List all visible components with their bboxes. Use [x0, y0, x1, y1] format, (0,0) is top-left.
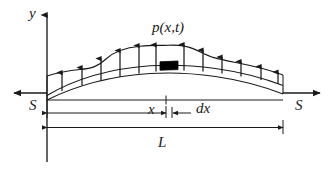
distance-x-label: x [148, 102, 155, 117]
tension-label-right: S [295, 98, 303, 113]
element-dx-group [160, 61, 178, 70]
length-L-label: L [158, 135, 166, 150]
tension-label-left: S [29, 98, 37, 113]
y-axis-label: y [29, 6, 36, 21]
string-load-diagram: y p(x,t) S S x dx L [0, 0, 329, 169]
load-function-label: p(x,t) [152, 20, 184, 35]
element-dx-label: dx [196, 101, 210, 116]
dimension-dx-group [172, 107, 191, 118]
dimension-L-group [47, 120, 283, 134]
element-dx-block [160, 61, 178, 70]
